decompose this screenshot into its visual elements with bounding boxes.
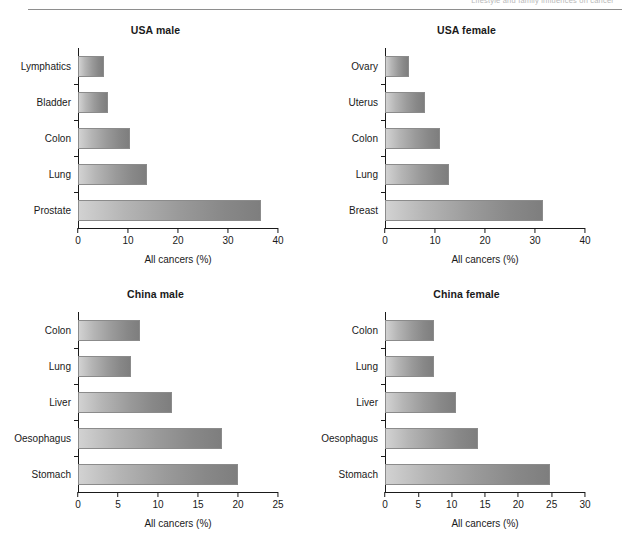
chart-title: USA male	[0, 24, 311, 36]
x-axis-ticks: 0510152025	[78, 492, 278, 520]
x-axis-tick: 10	[429, 228, 440, 246]
x-axis-tick: 10	[122, 228, 133, 246]
x-tick-mark	[278, 228, 279, 233]
category-label: Lung	[49, 169, 71, 180]
x-tick-label: 5	[115, 499, 121, 510]
bar	[78, 56, 104, 77]
x-tick-label: 20	[172, 235, 183, 246]
y-axis-tick	[74, 456, 78, 457]
bar-row: Stomach	[78, 456, 278, 492]
bar	[385, 128, 440, 149]
x-tick-mark	[278, 492, 279, 497]
x-tick-mark	[128, 228, 129, 233]
chart-panel-china-male: China male ColonLungLiverOesophagusStoma…	[0, 278, 311, 543]
figure-panel-grid: USA male LymphaticsBladderColonLungProst…	[0, 14, 622, 543]
bar-row: Oesophagus	[385, 420, 585, 456]
plot-area: ColonLungLiverOesophagusStomach 05101520…	[385, 312, 585, 492]
bar-row: Lung	[385, 156, 585, 192]
bar	[78, 92, 108, 113]
bar-row: Uterus	[385, 84, 585, 120]
x-tick-mark	[418, 492, 419, 497]
y-axis-tick	[74, 120, 78, 121]
category-label: Bladder	[37, 97, 71, 108]
x-axis-tick: 10	[152, 492, 163, 510]
running-header-text: Lifestyle and family influences on cance…	[471, 0, 614, 5]
bar	[385, 392, 456, 413]
x-axis-tick: 0	[75, 228, 81, 246]
y-axis-tick	[74, 420, 78, 421]
bar	[78, 428, 222, 449]
bar-row: Lung	[78, 156, 278, 192]
chart-title: China female	[311, 288, 622, 300]
x-axis-tick: 5	[416, 492, 422, 510]
y-axis-tick	[74, 348, 78, 349]
category-label: Lymphatics	[21, 61, 71, 72]
x-tick-label: 10	[446, 499, 457, 510]
bar	[385, 464, 550, 485]
bar-row: Liver	[385, 384, 585, 420]
category-label: Oesophagus	[321, 433, 378, 444]
y-axis-tick	[74, 192, 78, 193]
bar-rows: LymphaticsBladderColonLungProstate	[78, 48, 278, 228]
x-axis-tick: 25	[546, 492, 557, 510]
bar-rows: OvaryUterusColonLungBreast	[385, 48, 585, 228]
chart-title: China male	[0, 288, 311, 300]
x-tick-mark	[78, 228, 79, 233]
header-rule	[28, 9, 622, 10]
x-axis-tick: 25	[272, 492, 283, 510]
plot-area: ColonLungLiverOesophagusStomach 05101520…	[78, 312, 278, 492]
y-axis-tick	[381, 120, 385, 121]
x-tick-label: 40	[272, 235, 283, 246]
bar	[385, 428, 478, 449]
x-tick-mark	[585, 228, 586, 233]
chart-panel-usa-female: USA female OvaryUterusColonLungBreast 01…	[311, 14, 622, 278]
x-tick-label: 25	[272, 499, 283, 510]
x-tick-mark	[118, 492, 119, 497]
x-axis-title: All cancers (%)	[78, 254, 278, 265]
plot-area: LymphaticsBladderColonLungProstate 01020…	[78, 48, 278, 228]
x-tick-mark	[435, 228, 436, 233]
x-tick-mark	[451, 492, 452, 497]
category-label: Lung	[356, 169, 378, 180]
x-tick-label: 15	[479, 499, 490, 510]
x-axis-title: All cancers (%)	[78, 518, 278, 529]
x-axis-tick: 0	[382, 228, 388, 246]
x-tick-label: 25	[546, 499, 557, 510]
y-axis-tick	[381, 420, 385, 421]
y-axis-tick	[74, 384, 78, 385]
bar	[78, 464, 238, 485]
bar-row: Ovary	[385, 48, 585, 84]
bar-row: Lymphatics	[78, 48, 278, 84]
x-tick-mark	[78, 492, 79, 497]
category-label: Prostate	[34, 205, 71, 216]
y-axis-tick	[381, 348, 385, 349]
bar	[385, 320, 434, 341]
bar-row: Prostate	[78, 192, 278, 228]
x-axis-tick: 0	[75, 492, 81, 510]
bar	[78, 320, 140, 341]
x-tick-label: 0	[382, 235, 388, 246]
y-axis-tick	[381, 192, 385, 193]
x-axis-tick: 20	[479, 228, 490, 246]
x-tick-mark	[178, 228, 179, 233]
bar-rows: ColonLungLiverOesophagusStomach	[78, 312, 278, 492]
x-tick-mark	[585, 492, 586, 497]
x-tick-label: 10	[429, 235, 440, 246]
bar-rows: ColonLungLiverOesophagusStomach	[385, 312, 585, 492]
x-axis-tick: 15	[192, 492, 203, 510]
x-tick-mark	[535, 228, 536, 233]
x-axis-title: All cancers (%)	[385, 254, 585, 265]
x-axis-tick: 30	[529, 228, 540, 246]
bar	[385, 92, 425, 113]
x-axis-tick: 15	[479, 492, 490, 510]
x-tick-label: 5	[416, 499, 422, 510]
category-label: Oesophagus	[14, 433, 71, 444]
x-axis-tick: 20	[172, 228, 183, 246]
plot-area: OvaryUterusColonLungBreast 010203040 All…	[385, 48, 585, 228]
bar	[78, 200, 261, 221]
bar	[385, 56, 409, 77]
bar	[385, 356, 434, 377]
category-label: Ovary	[351, 61, 378, 72]
x-axis-tick: 5	[115, 492, 121, 510]
x-tick-label: 15	[192, 499, 203, 510]
